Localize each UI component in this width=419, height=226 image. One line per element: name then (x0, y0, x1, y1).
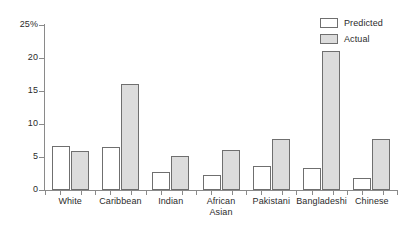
bar-actual (372, 139, 390, 190)
bar-actual (272, 139, 290, 190)
x-tick-mark (110, 190, 111, 195)
legend-swatch-actual (320, 34, 338, 44)
x-tick-mark (261, 190, 262, 195)
x-tick-mark (131, 190, 132, 195)
x-axis-line (44, 190, 397, 191)
y-tick-mark (39, 190, 45, 191)
y-tick-label: 10 (2, 119, 38, 128)
bar-chart-figure: 0510152025% WhiteCaribbeanIndianAfrican … (0, 0, 419, 226)
bar-actual (171, 156, 189, 190)
x-tick-mark (362, 190, 363, 195)
x-tick-mark (182, 190, 183, 195)
legend-swatch-predicted (320, 18, 338, 28)
bar-actual (121, 84, 139, 190)
bar-predicted (203, 175, 221, 190)
legend-item-actual: Actual (320, 32, 412, 45)
bar-predicted (52, 146, 70, 190)
y-tick-label: 25% (2, 20, 38, 29)
bar-predicted (353, 178, 371, 190)
bar-actual (322, 51, 340, 190)
x-tick-mark (196, 190, 197, 195)
bar-predicted (253, 166, 271, 190)
bar-predicted (102, 147, 120, 190)
legend-label-predicted: Predicted (344, 18, 383, 28)
x-tick-mark (146, 190, 147, 195)
y-tick-mark (39, 58, 45, 59)
plot-area (45, 25, 397, 190)
y-tick-label: 15 (2, 86, 38, 95)
x-tick-mark (95, 190, 96, 195)
y-tick-label: 20 (2, 53, 38, 62)
x-tick-mark (45, 190, 46, 195)
category-label: Chinese (341, 196, 403, 207)
x-tick-mark (60, 190, 61, 195)
bar-actual (71, 151, 89, 190)
x-tick-mark (246, 190, 247, 195)
x-tick-mark (383, 190, 384, 195)
x-tick-mark (211, 190, 212, 195)
x-tick-mark (81, 190, 82, 195)
y-tick-mark (39, 124, 45, 125)
bar-predicted (152, 172, 170, 190)
y-tick-label: 0 (2, 185, 38, 194)
x-tick-mark (232, 190, 233, 195)
x-tick-mark (347, 190, 348, 195)
x-tick-mark (296, 190, 297, 195)
x-tick-mark (312, 190, 313, 195)
bar-predicted (303, 168, 321, 190)
legend-label-actual: Actual (344, 34, 370, 44)
legend-item-predicted: Predicted (320, 16, 412, 29)
y-tick-mark (39, 25, 45, 26)
x-tick-mark (333, 190, 334, 195)
x-tick-mark (161, 190, 162, 195)
x-tick-mark (397, 190, 398, 195)
x-tick-mark (282, 190, 283, 195)
chart-legend: Predicted Actual (320, 16, 412, 48)
y-tick-label: 5 (2, 152, 38, 161)
y-tick-mark (39, 157, 45, 158)
y-axis-labels: 0510152025% (0, 0, 38, 226)
y-tick-mark (39, 91, 45, 92)
bar-actual (222, 150, 240, 190)
